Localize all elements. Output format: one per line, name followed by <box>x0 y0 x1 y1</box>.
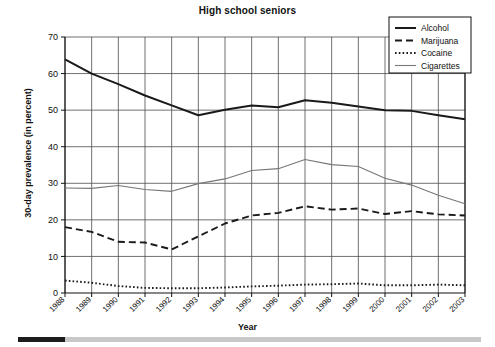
legend: AlcoholMarijuanaCocaineCigarettes <box>389 17 471 73</box>
x-tick-label: 1990 <box>101 295 120 314</box>
x-tick-label: 1996 <box>261 295 280 314</box>
x-tick-label: 1998 <box>314 295 333 314</box>
scrollbar-thumb[interactable] <box>18 337 65 342</box>
x-tick-label: 1994 <box>207 295 226 314</box>
x-tick-label: 1991 <box>127 295 146 314</box>
y-tick-label: 50 <box>48 105 58 115</box>
plot-area: 010203040506070 198819891990199119921993… <box>0 0 495 347</box>
x-tick-label: 2001 <box>394 295 413 314</box>
series-line-cocaine <box>65 281 465 289</box>
axis-frame <box>65 37 465 293</box>
legend-label-marijuana: Marijuana <box>421 36 459 46</box>
legend-label-alcohol: Alcohol <box>421 23 449 33</box>
legend-label-cigarettes: Cigarettes <box>421 61 460 71</box>
x-tick-label: 1995 <box>234 295 253 314</box>
x-tick-label: 1989 <box>74 295 93 314</box>
x-tick-label: 2000 <box>367 295 386 314</box>
x-tick-label: 1988 <box>47 295 66 314</box>
y-axis-ticks: 010203040506070 <box>48 32 65 298</box>
x-axis-ticks: 1988198919901991199219931994199519961997… <box>47 293 466 314</box>
x-tick-label: 2003 <box>447 295 466 314</box>
legend-label-cocaine: Cocaine <box>421 48 452 58</box>
x-tick-label: 1997 <box>287 295 306 314</box>
x-tick-label: 1992 <box>154 295 173 314</box>
x-tick-label: 1993 <box>181 295 200 314</box>
x-tick-label: 1999 <box>341 295 360 314</box>
y-tick-label: 70 <box>48 32 58 42</box>
y-tick-label: 40 <box>48 142 58 152</box>
data-series-group <box>65 59 465 288</box>
series-line-marijuana <box>65 206 465 249</box>
series-line-cigarettes <box>65 160 465 204</box>
y-tick-label: 20 <box>48 215 58 225</box>
y-tick-label: 10 <box>48 252 58 262</box>
y-tick-label: 30 <box>48 178 58 188</box>
horizontal-scrollbar[interactable] <box>18 337 481 342</box>
y-tick-label: 60 <box>48 69 58 79</box>
chart-figure: High school seniors 30-day prevalence (i… <box>0 0 495 347</box>
x-gridlines <box>65 37 465 293</box>
x-tick-label: 2002 <box>421 295 440 314</box>
